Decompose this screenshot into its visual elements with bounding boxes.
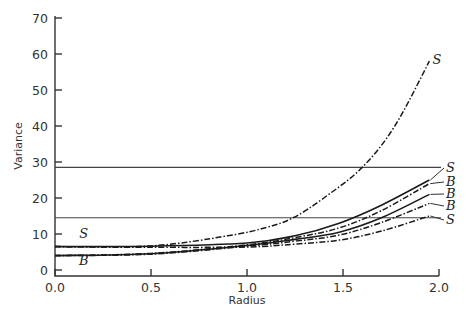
curve-start-label: B	[78, 253, 89, 268]
y-tick-label: 60	[32, 47, 48, 62]
curve-s-solid	[55, 180, 429, 247]
axes: 0102030405060700.00.51.01.52.0	[32, 11, 449, 296]
x-tick-label: 1.5	[333, 280, 353, 295]
curves	[55, 61, 429, 255]
x-tick-label: 0.0	[45, 280, 65, 295]
y-axis-title: Variance	[12, 122, 25, 170]
curve-b-dash-dot	[55, 184, 429, 256]
y-tick-label: 50	[32, 83, 48, 98]
x-axis-title: Radius	[229, 294, 266, 307]
x-tick-label: 0.5	[141, 280, 161, 295]
curve-start-label: S	[79, 226, 88, 241]
y-tick-label: 30	[32, 155, 48, 170]
curve-s-dash-dot	[55, 61, 429, 247]
variance-vs-radius-chart: 0102030405060700.00.51.01.52.0 SSBBBSSB …	[0, 0, 466, 318]
curve-end-label: S	[446, 212, 455, 227]
y-tick-label: 10	[32, 227, 48, 242]
y-tick-label: 40	[32, 119, 48, 134]
label-leader-line	[430, 168, 444, 180]
curve-end-label: S	[432, 52, 441, 67]
y-tick-label: 0	[40, 263, 48, 278]
curve-end-label: S	[446, 160, 455, 175]
y-tick-label: 70	[32, 11, 48, 26]
curve-labels: SSBBBSSB	[78, 52, 456, 268]
x-tick-label: 2.0	[429, 280, 449, 295]
curve-end-label: B	[445, 198, 456, 213]
axis-lines	[55, 16, 439, 276]
label-leader-line	[430, 203, 444, 206]
x-tick-label: 1.0	[237, 280, 257, 295]
label-leader-line	[430, 182, 444, 184]
y-tick-label: 20	[32, 191, 48, 206]
